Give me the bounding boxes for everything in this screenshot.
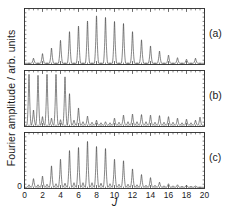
panel-b (25, 71, 205, 127)
panel-c (25, 133, 205, 189)
spectrum-trace (25, 74, 205, 125)
panel-label-c: (c) (209, 151, 221, 163)
panel-a (25, 9, 205, 65)
y-tick-label-zero: 0 (17, 181, 22, 191)
spectra-plot: 024681012141618200 (0, 0, 233, 211)
spectrum-trace (25, 16, 205, 63)
panel-label-b: (b) (209, 89, 222, 101)
panel-label-a: (a) (209, 27, 222, 39)
figure-container: Fourier amplitude / arb. units 024681012… (0, 0, 233, 211)
spectrum-trace (25, 141, 205, 187)
x-axis-label: J (24, 196, 205, 208)
